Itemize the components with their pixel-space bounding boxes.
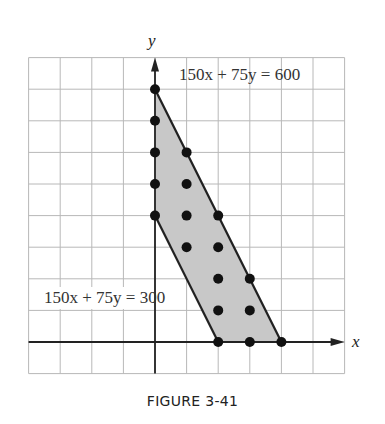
- lattice-point: [150, 116, 160, 126]
- lattice-point: [182, 179, 192, 189]
- figure-caption: FIGURE 3-41: [0, 393, 385, 409]
- lattice-point: [245, 274, 255, 284]
- equation-lower-label: 150x + 75y = 300: [44, 288, 165, 307]
- lattice-point: [182, 147, 192, 157]
- lattice-point: [150, 211, 160, 221]
- lattice-point: [213, 337, 223, 347]
- x-axis-arrow-icon: [331, 338, 345, 346]
- y-axis-arrow-icon: [151, 58, 159, 72]
- lattice-point: [182, 242, 192, 252]
- lattice-point: [150, 147, 160, 157]
- lattice-point: [245, 337, 255, 347]
- lattice-point: [245, 305, 255, 315]
- lattice-point: [213, 274, 223, 284]
- lattice-point: [276, 337, 286, 347]
- lattice-point: [182, 211, 192, 221]
- y-axis-label: y: [146, 31, 156, 50]
- equation-upper-label: 150x + 75y = 600: [179, 65, 300, 84]
- lattice-point: [213, 305, 223, 315]
- lattice-point: [213, 211, 223, 221]
- figure-canvas: 150x + 75y = 600 150x + 75y = 300 y x: [0, 0, 385, 424]
- lattice-point: [213, 242, 223, 252]
- x-axis-label: x: [351, 332, 360, 351]
- lattice-point: [150, 179, 160, 189]
- lattice-point: [150, 84, 160, 94]
